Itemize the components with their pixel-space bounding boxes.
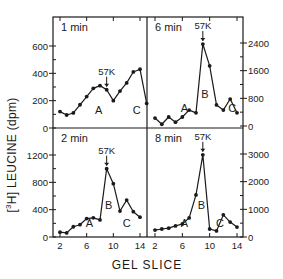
y-tick-label: 1200 <box>27 150 48 161</box>
x-tick-label: 10 <box>204 240 215 251</box>
y-tick-label: 600 <box>32 41 48 52</box>
annotation-57k-label: 57K <box>194 131 212 142</box>
data-point <box>98 218 102 222</box>
y-tick-label: 3000 <box>248 149 269 160</box>
x-tick-label: 10 <box>108 240 119 251</box>
y-tick-label: 800 <box>32 177 48 188</box>
peak-label-b: B <box>201 88 208 100</box>
data-point <box>228 220 232 224</box>
data-point <box>167 115 171 119</box>
x-tick-label: 2 <box>57 240 62 251</box>
data-point <box>78 223 82 227</box>
data-point <box>215 103 219 107</box>
annotation-57k-label: 57K <box>98 145 116 156</box>
y-tick-label: 400 <box>32 68 48 79</box>
plot-frame <box>53 17 243 237</box>
data-point <box>208 64 212 68</box>
panels: 02004006001 min57KAC0800160024006 min57K… <box>27 17 269 251</box>
data-point <box>145 102 149 106</box>
data-point <box>111 182 115 186</box>
y-tick-label: 400 <box>32 204 48 215</box>
peak-label-c: C <box>123 217 131 229</box>
data-point <box>235 225 239 229</box>
data-point <box>174 224 178 228</box>
data-point <box>58 110 62 114</box>
y-tick-label: 1600 <box>248 65 269 76</box>
data-point <box>180 115 184 119</box>
data-point <box>138 67 142 71</box>
peak-label-a: A <box>181 102 189 114</box>
panel-bottom-right: 01000200030002610148 min57KABC <box>152 131 269 251</box>
y-tick-label: 2000 <box>248 176 269 187</box>
data-point <box>118 209 122 213</box>
panel-top-left: 02004006001 min57KAC <box>32 17 148 134</box>
y-tick-label: 1000 <box>248 204 269 215</box>
data-point <box>138 215 142 219</box>
data-point <box>167 226 171 230</box>
data-point <box>125 198 129 202</box>
data-point <box>105 88 109 92</box>
data-point <box>153 116 157 120</box>
peak-label-c: C <box>228 102 236 114</box>
data-point <box>118 89 122 93</box>
data-point <box>221 108 225 112</box>
x-tick-label: 14 <box>135 240 146 251</box>
series-line <box>155 155 237 231</box>
peak-label-c: C <box>133 104 141 116</box>
arrow-head-icon <box>104 163 109 166</box>
data-point <box>131 70 135 74</box>
x-axis-label: GEL SLICE <box>112 258 183 272</box>
arrow-head-icon <box>200 38 205 41</box>
x-tick-label: 6 <box>180 240 185 251</box>
data-point <box>194 193 198 197</box>
data-point <box>160 122 164 126</box>
data-point <box>105 167 109 171</box>
peak-label-a: A <box>95 104 103 116</box>
peak-label-c: C <box>216 217 224 229</box>
x-tick-label: 2 <box>152 240 157 251</box>
x-tick-label: 14 <box>232 240 243 251</box>
panel-top-right: 0800160024006 min57KABC <box>153 17 269 132</box>
data-point <box>131 210 135 214</box>
y-axis-label: [3H] LEUCINE (dpm) <box>4 97 19 212</box>
data-point <box>208 227 212 231</box>
panel-title: 1 min <box>61 21 88 33</box>
arrow-head-icon <box>200 149 205 152</box>
arrow-head-icon <box>104 84 109 87</box>
data-point <box>201 153 205 157</box>
y-tick-label: 0 <box>43 123 48 134</box>
panel-title: 8 min <box>155 132 182 144</box>
y-tick-label: 0 <box>43 232 48 243</box>
data-point <box>58 230 62 234</box>
data-point <box>215 229 219 233</box>
y-tick-label: 2400 <box>248 38 269 49</box>
data-point <box>174 120 178 124</box>
panel-bottom-left: 040080012002610142 min57KABC <box>27 132 145 251</box>
y-tick-label: 800 <box>248 93 264 104</box>
data-point <box>91 86 95 90</box>
data-point <box>65 113 69 117</box>
x-tick-label: 6 <box>84 240 89 251</box>
annotation-57k-label: 57K <box>194 20 212 31</box>
data-point <box>201 42 205 46</box>
data-point <box>194 111 198 115</box>
figure-canvas: 02004006001 min57KAC0800160024006 min57K… <box>0 0 283 279</box>
panel-title: 2 min <box>61 132 88 144</box>
data-point <box>85 95 89 99</box>
annotation-57k-label: 57K <box>98 66 116 77</box>
peak-label-a: A <box>86 217 94 229</box>
y-tick-label: 200 <box>32 95 48 106</box>
peak-label-b: B <box>198 199 205 211</box>
data-point <box>125 81 129 85</box>
data-point <box>98 84 102 88</box>
y-tick-label: 0 <box>248 232 253 243</box>
panel-title: 6 min <box>155 21 182 33</box>
data-point <box>153 228 157 232</box>
y-tick-label: 0 <box>248 121 253 132</box>
peak-label-b: B <box>105 199 112 211</box>
data-point <box>71 111 75 115</box>
data-point <box>71 225 75 229</box>
data-point <box>65 231 69 235</box>
data-point <box>160 227 164 231</box>
data-point <box>111 99 115 103</box>
